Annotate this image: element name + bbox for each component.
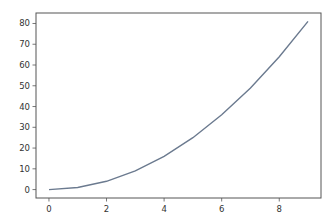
y-tick-label: 80 xyxy=(19,18,30,28)
x-axis-ticks: 02468 xyxy=(46,198,282,214)
y-tick-label: 0 xyxy=(25,185,30,195)
plot-area-frame xyxy=(36,13,321,198)
x-tick-label: 0 xyxy=(46,204,51,214)
x-tick-label: 6 xyxy=(219,204,224,214)
y-tick-label: 60 xyxy=(19,60,30,70)
y-tick-label: 50 xyxy=(19,81,30,91)
line-chart: 01020304050607080 02468 xyxy=(0,0,336,223)
x-tick-label: 4 xyxy=(161,204,166,214)
y-tick-label: 20 xyxy=(19,143,30,153)
y-tick-label: 40 xyxy=(19,102,30,112)
y-tick-label: 70 xyxy=(19,39,30,49)
y-tick-label: 30 xyxy=(19,122,30,132)
y-tick-label: 10 xyxy=(19,164,30,174)
x-tick-label: 2 xyxy=(104,204,109,214)
y-axis-ticks: 01020304050607080 xyxy=(19,18,36,194)
x-tick-label: 8 xyxy=(277,204,282,214)
